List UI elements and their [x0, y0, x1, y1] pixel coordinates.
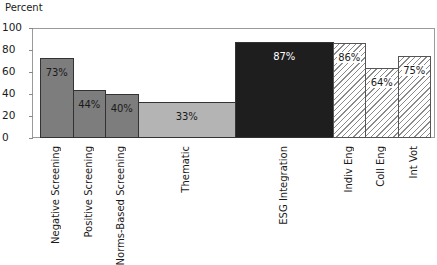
bar-positive-screening: 44% — [73, 90, 107, 138]
bar-thematic: 33% — [138, 102, 237, 138]
bar-coll-eng: 64% — [365, 68, 399, 138]
y-axis-title: Percent — [5, 2, 43, 13]
y-tick-label: 20 — [2, 109, 24, 121]
x-axis-label: Coll Eng — [375, 146, 386, 187]
y-tick-label: 40 — [2, 87, 24, 99]
x-axis-label: Indiv Eng — [343, 146, 354, 193]
bar-negative-screening: 73% — [40, 58, 74, 138]
y-tick-mark — [29, 72, 33, 73]
y-tick-mark — [29, 28, 33, 29]
bar-value-label: 44% — [74, 99, 106, 110]
y-tick-mark — [29, 94, 33, 95]
y-tick-label: 60 — [2, 65, 24, 77]
x-axis-label: ESG Integration — [278, 146, 289, 225]
bar-int-vot: 75% — [398, 56, 432, 139]
y-tick-label: 100 — [2, 21, 24, 33]
bar-value-label: 75% — [399, 65, 431, 76]
y-tick-label: 0 — [2, 131, 24, 143]
x-axis-label: Norms-Based Screening — [115, 146, 126, 265]
bar-value-label: 64% — [366, 77, 398, 88]
y-tick-mark — [29, 116, 33, 117]
bar-value-label: 87% — [236, 51, 333, 62]
bar-value-label: 86% — [334, 52, 366, 63]
y-tick-label: 80 — [2, 43, 24, 55]
bar-indiv-eng: 86% — [333, 43, 367, 138]
bar-value-label: 40% — [106, 103, 138, 114]
y-tick-mark — [29, 138, 33, 139]
y-tick-mark — [29, 50, 33, 51]
bar-esg-integration: 87% — [235, 42, 334, 138]
bar-value-label: 33% — [139, 111, 236, 122]
x-axis-label: Int Vot — [408, 146, 419, 179]
bar-norms-based-screening: 40% — [105, 94, 139, 138]
x-axis-label: Negative Screening — [50, 146, 61, 244]
x-axis-label: Thematic — [180, 146, 191, 193]
bar-value-label: 73% — [41, 67, 73, 78]
x-axis-label: Positive Screening — [83, 146, 94, 238]
